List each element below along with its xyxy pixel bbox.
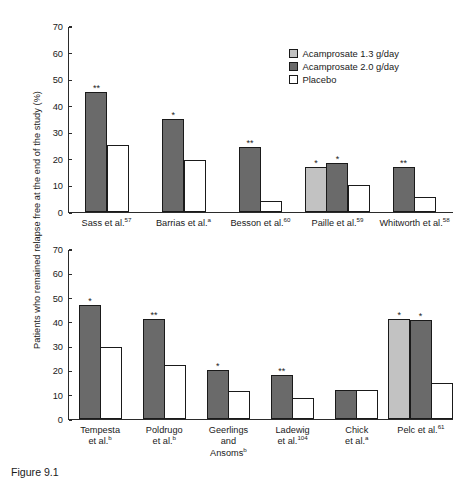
bar-group: * bbox=[146, 27, 223, 212]
bar bbox=[414, 197, 436, 212]
x-axis-label: Sass et al.57 bbox=[68, 218, 145, 229]
bar-group: ** bbox=[133, 250, 197, 419]
bar-groups-bottom: ******** bbox=[69, 250, 453, 419]
significance-marker: ** bbox=[400, 160, 407, 167]
figure-caption: Figure 9.1 bbox=[11, 466, 59, 478]
bar bbox=[348, 185, 370, 212]
significance-marker: * bbox=[397, 312, 401, 319]
significance-marker: * bbox=[171, 112, 175, 119]
bar: * bbox=[388, 319, 410, 419]
legend-label-placebo: Placebo bbox=[303, 74, 337, 85]
x-axis-label: GeerlingsandAnsomsb bbox=[196, 425, 260, 459]
bar: * bbox=[410, 320, 432, 419]
x-axis-label: Chicket al.a bbox=[325, 425, 389, 459]
significance-marker: ** bbox=[278, 368, 285, 375]
legend-swatch-icon-acamprosate-2-0 bbox=[289, 62, 298, 71]
bar-group: * bbox=[69, 250, 133, 419]
y-tick-label: 30 bbox=[53, 128, 69, 138]
chart-panel-bottom: 010203040506070 ******** Tempestaet al.b… bbox=[0, 243, 461, 455]
bar: * bbox=[79, 305, 101, 419]
bar-group: ** bbox=[69, 27, 146, 212]
x-axis-label: Poldrugoet al.b bbox=[132, 425, 196, 459]
bar bbox=[164, 365, 186, 419]
y-tick-mark bbox=[69, 419, 72, 420]
bar bbox=[260, 201, 282, 212]
significance-marker: * bbox=[216, 363, 220, 370]
x-axis-label: Pelc et al.61 bbox=[389, 425, 453, 459]
x-axis-label-superscript: 58 bbox=[443, 216, 450, 223]
legend-item-placebo: Placebo bbox=[289, 73, 399, 86]
bar: ** bbox=[143, 319, 165, 419]
legend-swatch-icon-placebo bbox=[289, 75, 298, 84]
bar-group: * bbox=[197, 250, 261, 419]
bar bbox=[184, 160, 206, 212]
legend-label-acamprosate-1-3: Acamprosate 1.3 g/day bbox=[303, 48, 399, 59]
x-axis-label-superscript: 59 bbox=[357, 216, 364, 223]
bar bbox=[100, 347, 122, 419]
significance-marker: ** bbox=[246, 140, 253, 147]
figure-9-1: Patients who remained relapse free at th… bbox=[0, 0, 461, 491]
bar-group bbox=[325, 250, 389, 419]
bar: * bbox=[207, 370, 229, 419]
bar: * bbox=[305, 167, 327, 212]
significance-marker: ** bbox=[93, 85, 100, 92]
y-tick-label: 10 bbox=[53, 391, 69, 401]
significance-marker: ** bbox=[150, 312, 157, 319]
y-tick-label: 50 bbox=[53, 294, 69, 304]
x-axis-label: Tempestaet al.b bbox=[68, 425, 132, 459]
significance-marker: * bbox=[314, 160, 318, 167]
bar-group: ** bbox=[223, 27, 300, 212]
legend-label-acamprosate-2-0: Acamprosate 2.0 g/day bbox=[303, 61, 399, 72]
y-tick-label: 60 bbox=[53, 49, 69, 59]
y-tick-label: 20 bbox=[53, 155, 69, 165]
bar: ** bbox=[85, 92, 107, 212]
y-tick-label: 30 bbox=[53, 342, 69, 352]
x-axis-labels-top: Sass et al.57Barrias et al.aBesson et al… bbox=[68, 218, 453, 229]
bar bbox=[356, 390, 378, 419]
y-tick-label: 70 bbox=[53, 22, 69, 32]
x-axis-label-superscript: 60 bbox=[284, 216, 291, 223]
significance-marker: * bbox=[336, 156, 340, 163]
y-tick-label: 50 bbox=[53, 75, 69, 85]
x-axis-label-superscript: 61 bbox=[438, 423, 445, 430]
x-axis-label-superscript: 57 bbox=[125, 216, 132, 223]
significance-marker: * bbox=[419, 313, 423, 320]
x-axis-label-superscript: a bbox=[365, 434, 368, 441]
x-axis-label: Barrias et al.a bbox=[145, 218, 222, 229]
bar: * bbox=[162, 119, 184, 212]
x-axis-label-superscript: b bbox=[172, 434, 175, 441]
bar: * bbox=[326, 163, 348, 212]
bar: ** bbox=[271, 375, 293, 419]
bar bbox=[431, 383, 453, 419]
y-tick-label: 70 bbox=[53, 245, 69, 255]
y-tick-label: 10 bbox=[53, 181, 69, 191]
bar bbox=[292, 398, 314, 419]
y-tick-label: 0 bbox=[58, 415, 69, 425]
y-tick-label: 0 bbox=[58, 208, 69, 218]
y-tick-label: 40 bbox=[53, 318, 69, 328]
x-axis-label: Besson et al.60 bbox=[222, 218, 299, 229]
x-axis-labels-bottom: Tempestaet al.bPoldrugoet al.bGeerlingsa… bbox=[68, 425, 453, 459]
bar: ** bbox=[393, 167, 415, 212]
x-axis-label-superscript: a bbox=[208, 216, 211, 223]
bar bbox=[228, 391, 250, 419]
plot-area-bottom: 010203040506070 ******** bbox=[68, 250, 453, 420]
x-axis-label-superscript: b bbox=[243, 446, 246, 453]
bar: ** bbox=[239, 147, 261, 212]
legend-item-acamprosate-2-0: Acamprosate 2.0 g/day bbox=[289, 60, 399, 73]
bar-group: ** bbox=[389, 250, 453, 419]
legend-swatch-icon-acamprosate-1-3 bbox=[289, 49, 298, 58]
x-axis-label-superscript: b bbox=[108, 434, 111, 441]
significance-marker: * bbox=[88, 298, 92, 305]
bar-group: ** bbox=[261, 250, 325, 419]
x-axis-label: Ladewiget al.104 bbox=[261, 425, 325, 459]
legend-item-acamprosate-1-3: Acamprosate 1.3 g/day bbox=[289, 47, 399, 60]
x-axis-label: Paille et al.59 bbox=[299, 218, 376, 229]
bar bbox=[335, 390, 357, 419]
bar bbox=[107, 145, 129, 212]
x-axis-label-superscript: 104 bbox=[297, 434, 307, 441]
chart-panel-top: 010203040506070 ********* Sass et al.57B… bbox=[0, 18, 461, 250]
y-tick-label: 20 bbox=[53, 366, 69, 376]
chart-legend: Acamprosate 1.3 g/day Acamprosate 2.0 g/… bbox=[289, 47, 399, 86]
x-axis-label: Whitworth et al.58 bbox=[376, 218, 453, 229]
